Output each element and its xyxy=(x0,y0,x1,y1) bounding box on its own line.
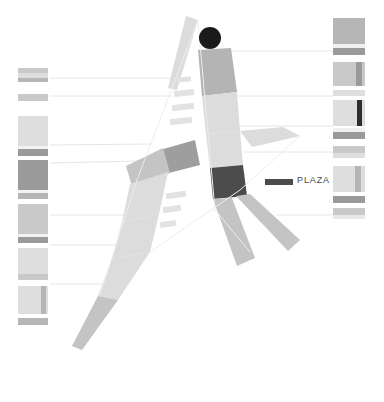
left-legend-column-band[interactable] xyxy=(18,248,48,274)
right-legend-column-band[interactable] xyxy=(333,44,365,48)
left-legend-column-band[interactable] xyxy=(18,68,48,73)
right-legend-column-band[interactable] xyxy=(333,208,365,215)
left-legend-column-band[interactable] xyxy=(18,204,48,234)
left-legend-column-band[interactable] xyxy=(18,190,48,193)
side-street-dash-2 xyxy=(174,89,195,97)
left-legend-column-band[interactable] xyxy=(18,78,48,82)
right-legend-column-band[interactable] xyxy=(333,196,365,203)
right-legend-column-group[interactable] xyxy=(333,18,365,219)
side-street-dash-3 xyxy=(172,103,195,111)
right-legend-column-band[interactable] xyxy=(333,215,365,219)
map-svg xyxy=(0,0,384,402)
left-legend-column-band[interactable] xyxy=(18,237,48,243)
left-legend-column-band[interactable] xyxy=(18,149,48,156)
left-legend-column-band[interactable] xyxy=(18,94,48,101)
legend-swatch-plaza xyxy=(265,179,293,185)
left-legend-column-band[interactable] xyxy=(18,160,48,190)
left-legend-column-band-accent xyxy=(41,286,46,314)
right-legend-column-band-accent xyxy=(356,62,362,86)
side-street-dash-7 xyxy=(160,220,177,228)
left-legend-column-band[interactable] xyxy=(18,146,48,149)
right-legend-column-band[interactable] xyxy=(333,90,365,96)
plaza-landmark-circle[interactable] xyxy=(199,27,221,49)
left-legend-column-band[interactable] xyxy=(18,274,48,280)
main-avenue-plaza-band[interactable] xyxy=(210,165,247,199)
right-legend-column-band[interactable] xyxy=(333,146,365,153)
side-street-dash-4 xyxy=(170,117,193,125)
landmark-group[interactable] xyxy=(199,27,221,49)
right-legend-column-band-accent xyxy=(355,166,361,192)
leader-lines-group xyxy=(50,51,333,284)
diagonal-road-upper[interactable] xyxy=(122,172,168,222)
side-street-dash-6 xyxy=(163,205,182,213)
main-avenue-mid[interactable] xyxy=(206,131,243,168)
left-legend-column-group[interactable] xyxy=(18,68,48,325)
right-legend-column-band[interactable] xyxy=(333,153,365,158)
leader-line-left-3 xyxy=(50,144,152,145)
right-legend-column-band[interactable] xyxy=(333,48,365,55)
left-legend-column-band[interactable] xyxy=(18,234,48,237)
right-legend-column-band[interactable] xyxy=(333,18,365,44)
right-legend-column-band[interactable] xyxy=(333,128,365,132)
legend-swatch-group xyxy=(265,179,293,185)
leader-line-left-4 xyxy=(50,161,140,163)
left-legend-column-band[interactable] xyxy=(18,318,48,325)
map-figure-canvas: PLAZA xyxy=(0,0,384,402)
diagonal-road-tail[interactable] xyxy=(72,296,118,350)
right-legend-column-band[interactable] xyxy=(333,132,365,139)
left-legend-column-band[interactable] xyxy=(18,116,48,146)
right-legend-column-band-accent xyxy=(357,100,362,126)
legend-label-plaza: PLAZA xyxy=(297,175,330,185)
left-legend-column-band[interactable] xyxy=(18,73,48,78)
left-legend-column-band[interactable] xyxy=(18,193,48,199)
side-street-dash-5 xyxy=(166,191,187,200)
